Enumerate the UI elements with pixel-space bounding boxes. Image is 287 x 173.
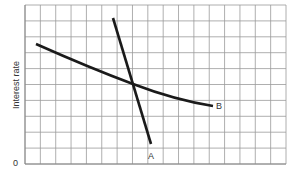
series-a-label: A	[148, 151, 154, 161]
series-b-label: B	[216, 101, 222, 111]
y-axis-label: Interest rate	[11, 55, 21, 115]
origin-label: 0	[13, 158, 18, 168]
grid	[25, 5, 286, 164]
chart-canvas	[0, 0, 287, 173]
